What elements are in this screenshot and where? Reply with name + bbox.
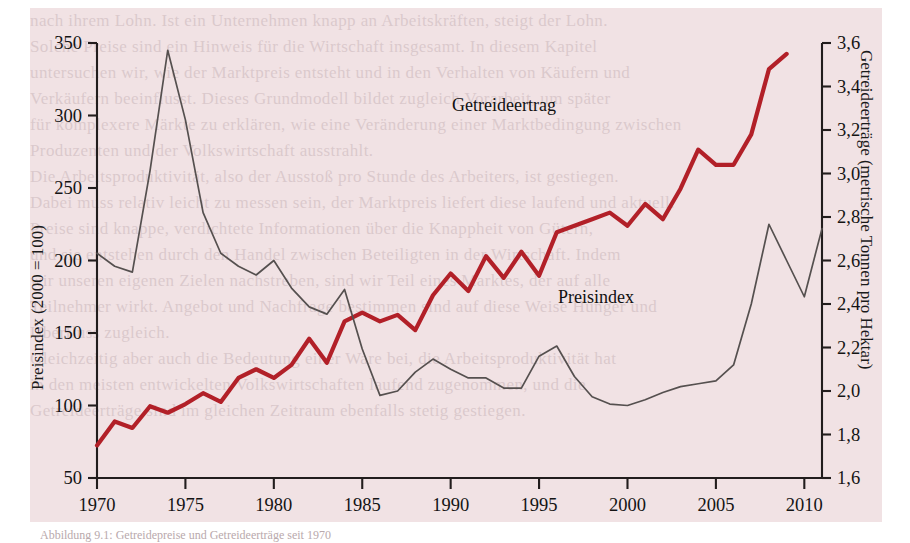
- bottom-axis-tick-label: 1970: [79, 495, 116, 515]
- left-axis-tick-label: 150: [54, 323, 82, 343]
- right-axis-tick-label: 1,6: [837, 468, 860, 488]
- yield-series-annotation: Getreideertrag: [452, 95, 556, 116]
- bottom-axis-tick-label: 2010: [786, 495, 823, 515]
- left-axis-tick-label: 50: [64, 468, 83, 488]
- bottom-axis-tick-label: 2000: [609, 495, 646, 515]
- right-axis-title: Getreideerträge (metrische Tonnen pro He…: [856, 50, 876, 369]
- bottom-axis-tick-label: 1990: [432, 495, 469, 515]
- bottom-axis-tick-label: 1975: [167, 495, 204, 515]
- bottom-axis-tick-label: 1995: [521, 495, 558, 515]
- left-axis-tick-label: 250: [54, 178, 82, 198]
- figure-caption: Abbildung 9.1: Getreidepreise und Getrei…: [40, 528, 880, 543]
- figure-container: nach ihrem Lohn. Ist ein Unternehmen kna…: [0, 0, 910, 543]
- left-axis-title: Preisindex (2000 = 100): [28, 225, 48, 390]
- left-axis-tick-label: 100: [54, 396, 82, 416]
- left-axis-tick-label: 300: [54, 106, 82, 126]
- price-series-annotation: Preisindex: [558, 287, 634, 308]
- bottom-axis-tick-label: 1985: [344, 495, 381, 515]
- left-axis-tick-label: 350: [54, 33, 82, 53]
- chart-plot-area: 350300250200150100503,63,43,23,02,82,62,…: [0, 0, 910, 543]
- bottom-axis-tick-label: 1980: [255, 495, 292, 515]
- bottom-axis-tick-label: 2005: [697, 495, 734, 515]
- right-axis-tick-label: 2,0: [837, 381, 860, 401]
- right-axis-tick-label: 1,8: [837, 425, 860, 445]
- left-axis-tick-label: 200: [54, 251, 82, 271]
